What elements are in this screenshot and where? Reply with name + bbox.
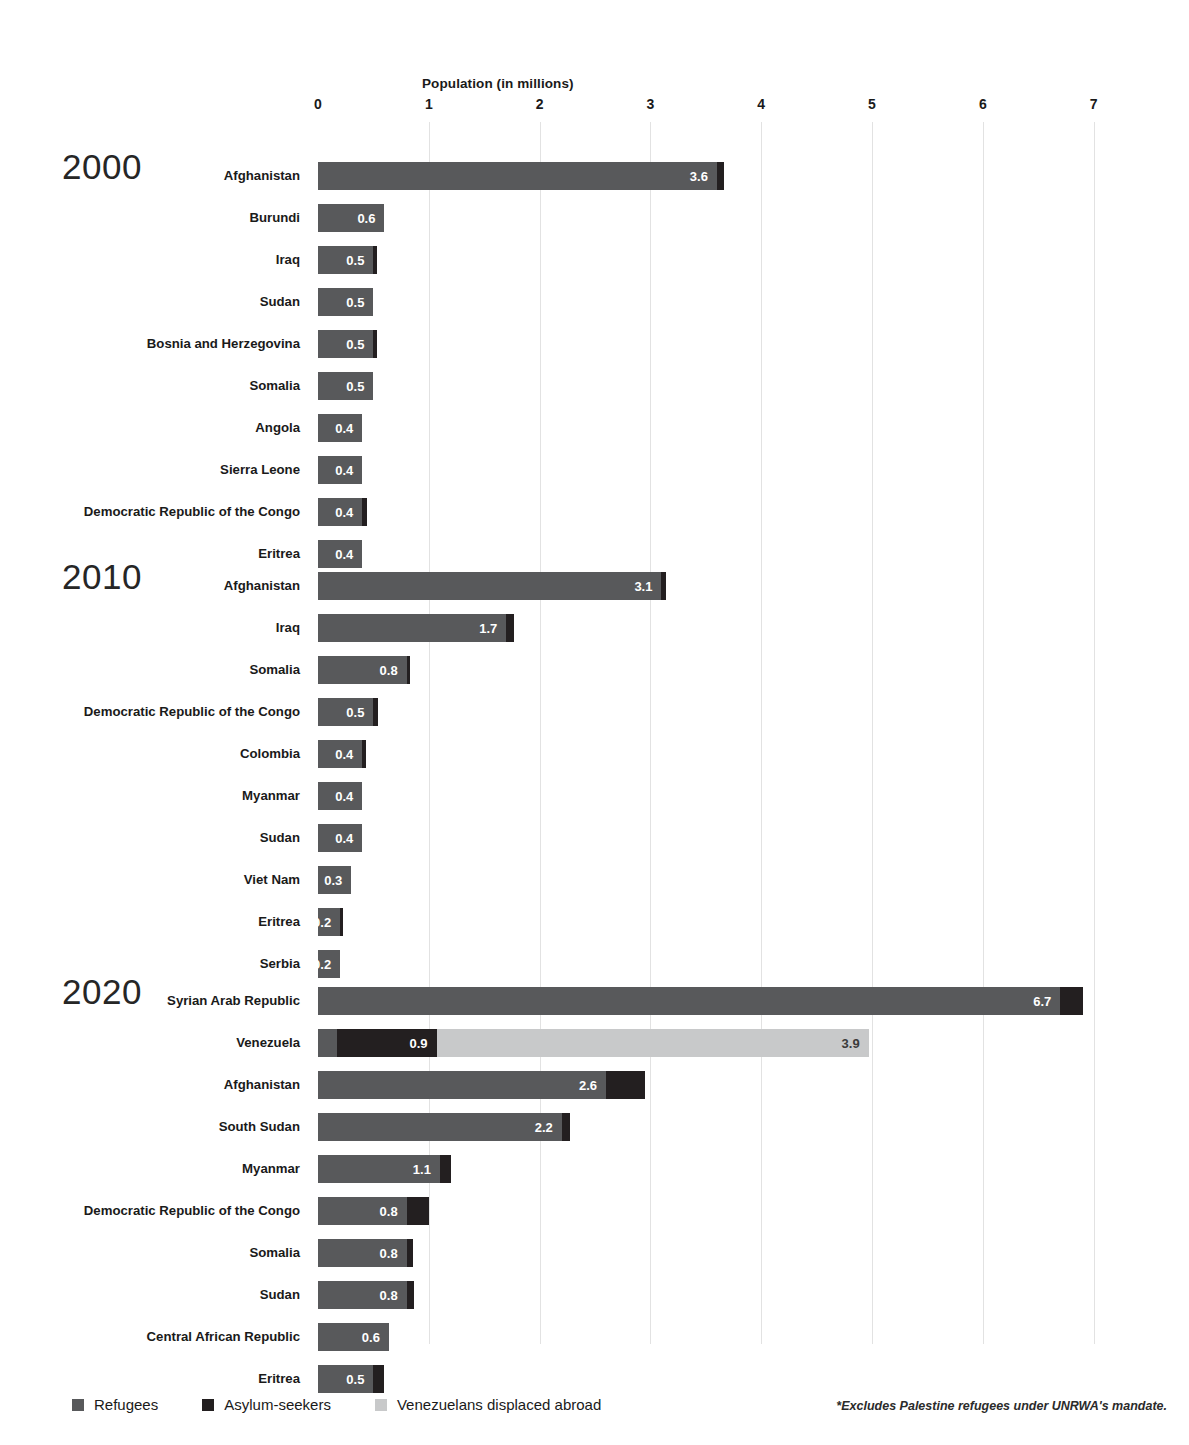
year-group-2000: 2000Afghanistan3.6Burundi0.6Iraq0.5Sudan… (0, 155, 1189, 575)
bar-segment-asylum[interactable] (606, 1071, 645, 1099)
bar-segment-asylum[interactable] (407, 1281, 415, 1309)
bar-segment-refugees[interactable]: 0.3 (318, 866, 351, 894)
bar-segment-refugees[interactable]: 2.6 (318, 1071, 606, 1099)
bar-value-label: 2.2 (535, 1120, 562, 1135)
bar-segment-asylum[interactable] (440, 1155, 451, 1183)
stacked-bar[interactable]: 0.5 (318, 288, 373, 316)
stacked-bar[interactable]: 1.1 (318, 1155, 451, 1183)
bar-segment-asylum[interactable] (407, 1239, 414, 1267)
stacked-bar[interactable]: 0.3 (318, 866, 351, 894)
bar-value-label: 0.5 (346, 1372, 373, 1387)
stacked-bar[interactable]: 0.6 (318, 1323, 389, 1351)
stacked-bar[interactable]: 0.8 (318, 1281, 414, 1309)
bar-value-label: 0.4 (335, 463, 362, 478)
bar-segment-refugees[interactable]: 0.4 (318, 740, 362, 768)
bar-row[interactable] (0, 901, 1189, 943)
stacked-bar[interactable]: 0.5 (318, 698, 378, 726)
bar-row[interactable] (0, 239, 1189, 281)
bar-segment-refugees[interactable]: 0.6 (318, 204, 384, 232)
bar-segment-asylum[interactable] (562, 1113, 570, 1141)
bar-segment-refugees[interactable]: 0.4 (318, 824, 362, 852)
bar-segment-refugees[interactable]: 0.5 (318, 372, 373, 400)
bar-segment-asylum[interactable] (407, 656, 410, 684)
bar-segment-venezuelans[interactable]: 3.9 (437, 1029, 869, 1057)
category-label: Venezuela (236, 1022, 300, 1064)
stacked-bar[interactable]: 0.5 (318, 330, 377, 358)
stacked-bar[interactable]: 0.8 (318, 1197, 429, 1225)
bar-segment-asylum[interactable] (373, 698, 377, 726)
stacked-bar[interactable]: 0.2 (318, 908, 343, 936)
stacked-bar[interactable]: 0.8 (318, 1239, 413, 1267)
stacked-bar[interactable]: 0.4 (318, 782, 362, 810)
bar-row[interactable] (0, 649, 1189, 691)
bar-segment-refugees[interactable]: 0.2 (318, 908, 340, 936)
bar-segment-refugees[interactable]: 1.7 (318, 614, 506, 642)
bar-segment-refugees[interactable]: 0.5 (318, 330, 373, 358)
bar-segment-asylum[interactable]: 0.9 (337, 1029, 437, 1057)
category-label: Democratic Republic of the Congo (84, 491, 300, 533)
bar-segment-asylum[interactable] (506, 614, 514, 642)
stacked-bar[interactable]: 0.5 (318, 1365, 384, 1393)
bar-value-label: 0.4 (335, 747, 362, 762)
bar-segment-refugees[interactable]: 0.5 (318, 698, 373, 726)
bar-segment-refugees[interactable]: 0.4 (318, 456, 362, 484)
bar-segment-refugees[interactable]: 0.5 (318, 246, 373, 274)
stacked-bar[interactable]: 2.6 (318, 1071, 645, 1099)
bar-segment-asylum[interactable] (373, 1365, 384, 1393)
bar-row[interactable] (0, 155, 1189, 197)
bar-row[interactable] (0, 980, 1189, 1022)
stacked-bar[interactable]: 0.4 (318, 540, 362, 568)
stacked-bar[interactable]: 0.6 (318, 204, 384, 232)
stacked-bar[interactable]: 0.4 (318, 456, 362, 484)
bar-value-label: 1.7 (479, 621, 506, 636)
bar-segment-asylum[interactable] (407, 1197, 429, 1225)
bar-segment-refugees[interactable]: 0.8 (318, 656, 407, 684)
category-label: Eritrea (258, 901, 300, 943)
legend-item[interactable]: Refugees (72, 1396, 158, 1413)
bar-segment-refugees[interactable]: 0.5 (318, 288, 373, 316)
stacked-bar[interactable]: 0.4 (318, 824, 362, 852)
bar-row[interactable] (0, 817, 1189, 859)
bar-segment-refugees[interactable]: 1.1 (318, 1155, 440, 1183)
category-label: Somalia (249, 1232, 300, 1274)
bar-segment-refugees[interactable]: 0.6 (318, 1323, 389, 1351)
stacked-bar[interactable]: 1.7 (318, 614, 514, 642)
stacked-bar[interactable]: 0.4 (318, 498, 367, 526)
stacked-bar[interactable]: 0.8 (318, 656, 410, 684)
bar-row[interactable] (0, 565, 1189, 607)
bar-segment-refugees[interactable]: 0.4 (318, 414, 362, 442)
stacked-bar[interactable]: 0.5 (318, 246, 377, 274)
bar-segment-asylum[interactable] (340, 908, 343, 936)
legend-item[interactable]: Venezuelans displaced abroad (375, 1396, 601, 1413)
bar-segment-refugees[interactable]: 0.4 (318, 782, 362, 810)
bar-row[interactable] (0, 1232, 1189, 1274)
bar-row[interactable] (0, 733, 1189, 775)
bar-segment-asylum[interactable] (362, 740, 365, 768)
bar-segment-refugees[interactable]: 0.4 (318, 540, 362, 568)
bar-segment-refugees[interactable]: 0.2 (318, 950, 340, 978)
bar-segment-refugees[interactable]: 0.4 (318, 498, 362, 526)
stacked-bar[interactable]: 0.4 (318, 740, 366, 768)
bar-segment-asylum[interactable] (362, 498, 366, 526)
bar-segment-refugees[interactable]: 0.5 (318, 1365, 373, 1393)
bar-segment-refugees[interactable]: 0.8 (318, 1197, 407, 1225)
stacked-bar[interactable]: 0.4 (318, 414, 362, 442)
x-tick-label: 4 (757, 96, 765, 112)
stacked-bar[interactable]: 0.93.9 (318, 1029, 869, 1057)
bar-row[interactable] (0, 1148, 1189, 1190)
bar-segment-asylum[interactable] (373, 246, 376, 274)
year-group-2020: 2020Syrian Arab Republic6.7Venezuela0.93… (0, 980, 1189, 1400)
bar-segment-refugees[interactable] (318, 1029, 337, 1057)
bar-segment-refugees[interactable]: 0.8 (318, 1239, 407, 1267)
legend-item[interactable]: Asylum-seekers (202, 1396, 331, 1413)
bar-row[interactable] (0, 407, 1189, 449)
stacked-bar[interactable]: 0.5 (318, 372, 373, 400)
stacked-bar[interactable]: 2.2 (318, 1113, 570, 1141)
bar-value-label: 0.6 (357, 211, 384, 226)
bar-value-label: 0.4 (335, 789, 362, 804)
bar-segment-refugees[interactable]: 0.8 (318, 1281, 407, 1309)
bar-segment-asylum[interactable] (373, 330, 376, 358)
stacked-bar[interactable]: 0.2 (318, 950, 340, 978)
x-tick-label: 2 (536, 96, 544, 112)
bar-segment-refugees[interactable]: 2.2 (318, 1113, 562, 1141)
